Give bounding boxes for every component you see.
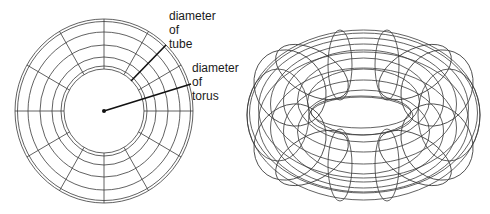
torus-label-line-1: diameter <box>192 61 239 75</box>
tube-leader-line <box>131 45 166 81</box>
leader-lines <box>104 45 191 111</box>
tube-label-line-2: of <box>169 23 216 37</box>
tube-diameter-label: diameter of tube <box>169 9 216 51</box>
tube-label-line-1: diameter <box>169 9 216 23</box>
torus-label-line-2: of <box>192 75 239 89</box>
tube-label-line-3: tube <box>169 37 216 51</box>
torus-leader-line <box>104 84 191 111</box>
torus-diameter-label: diameter of torus <box>192 61 239 103</box>
torus-label-line-3: torus <box>192 89 239 103</box>
isometric-torus <box>239 30 488 201</box>
meridians <box>239 30 488 201</box>
center-point <box>102 109 106 113</box>
torus-diagram <box>0 0 490 214</box>
